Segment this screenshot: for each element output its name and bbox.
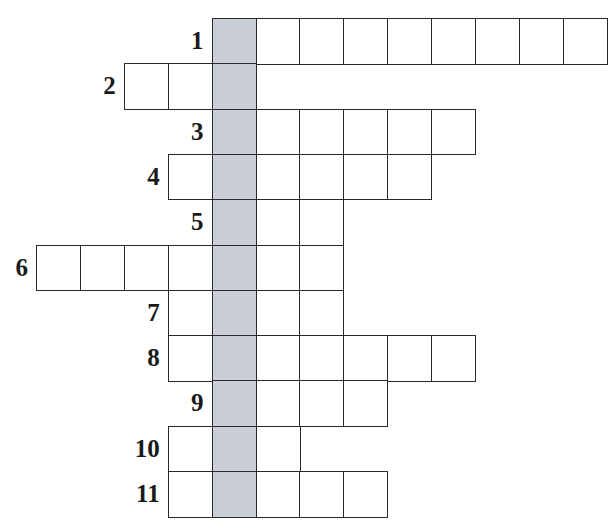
key-cell[interactable] (212, 290, 257, 337)
answer-cell[interactable] (168, 245, 213, 292)
answer-cell[interactable] (256, 18, 301, 65)
answer-cell[interactable] (256, 471, 301, 518)
answer-cell[interactable] (519, 18, 564, 65)
answer-cell[interactable] (256, 426, 301, 473)
answer-cell[interactable] (256, 380, 301, 427)
answer-cell[interactable] (299, 18, 344, 65)
clue-number-11: 11 (120, 471, 160, 516)
answer-cell[interactable] (299, 109, 344, 156)
answer-cell[interactable] (387, 109, 432, 156)
answer-cell[interactable] (36, 245, 81, 292)
clue-number-4: 4 (120, 154, 160, 199)
answer-cell[interactable] (256, 290, 301, 337)
answer-cell[interactable] (124, 245, 169, 292)
key-cell[interactable] (212, 109, 257, 156)
answer-cell[interactable] (563, 18, 608, 65)
answer-cell[interactable] (475, 18, 520, 65)
answer-cell[interactable] (168, 335, 213, 382)
key-cell[interactable] (212, 380, 257, 427)
answer-cell[interactable] (343, 18, 388, 65)
answer-cell[interactable] (124, 63, 169, 110)
clue-number-9: 9 (164, 380, 204, 425)
answer-cell[interactable] (387, 154, 432, 201)
answer-cell[interactable] (299, 290, 344, 337)
answer-cell[interactable] (168, 426, 213, 473)
answer-cell[interactable] (299, 199, 344, 246)
answer-cell[interactable] (343, 109, 388, 156)
answer-cell[interactable] (343, 380, 388, 427)
answer-cell[interactable] (343, 335, 388, 382)
answer-cell[interactable] (299, 154, 344, 201)
clue-number-6: 6 (0, 245, 28, 290)
answer-cell[interactable] (431, 18, 476, 65)
answer-cell[interactable] (256, 109, 301, 156)
answer-cell[interactable] (431, 109, 476, 156)
clue-number-10: 10 (120, 426, 160, 471)
clue-number-2: 2 (76, 63, 116, 108)
answer-cell[interactable] (80, 245, 125, 292)
answer-cell[interactable] (256, 245, 301, 292)
clue-number-5: 5 (164, 199, 204, 244)
answer-cell[interactable] (256, 335, 301, 382)
key-cell[interactable] (212, 471, 257, 518)
answer-cell[interactable] (168, 154, 213, 201)
answer-cell[interactable] (299, 245, 344, 292)
answer-cell[interactable] (387, 335, 432, 382)
key-cell[interactable] (212, 63, 257, 110)
answer-cell[interactable] (256, 154, 301, 201)
answer-cell[interactable] (168, 290, 213, 337)
key-cell[interactable] (212, 245, 257, 292)
key-cell[interactable] (212, 335, 257, 382)
answer-cell[interactable] (299, 471, 344, 518)
key-cell[interactable] (212, 426, 257, 473)
answer-cell[interactable] (168, 471, 213, 518)
key-cell[interactable] (212, 154, 257, 201)
answer-cell[interactable] (256, 199, 301, 246)
crossword-grid: 1234567891011 (0, 0, 614, 521)
answer-cell[interactable] (299, 335, 344, 382)
answer-cell[interactable] (299, 380, 344, 427)
clue-number-7: 7 (120, 290, 160, 335)
answer-cell[interactable] (168, 63, 213, 110)
answer-cell[interactable] (387, 18, 432, 65)
clue-number-1: 1 (164, 18, 204, 63)
answer-cell[interactable] (431, 335, 476, 382)
key-cell[interactable] (212, 199, 257, 246)
clue-number-3: 3 (164, 109, 204, 154)
clue-number-8: 8 (120, 335, 160, 380)
answer-cell[interactable] (343, 154, 388, 201)
key-cell[interactable] (212, 18, 257, 65)
answer-cell[interactable] (343, 471, 388, 518)
